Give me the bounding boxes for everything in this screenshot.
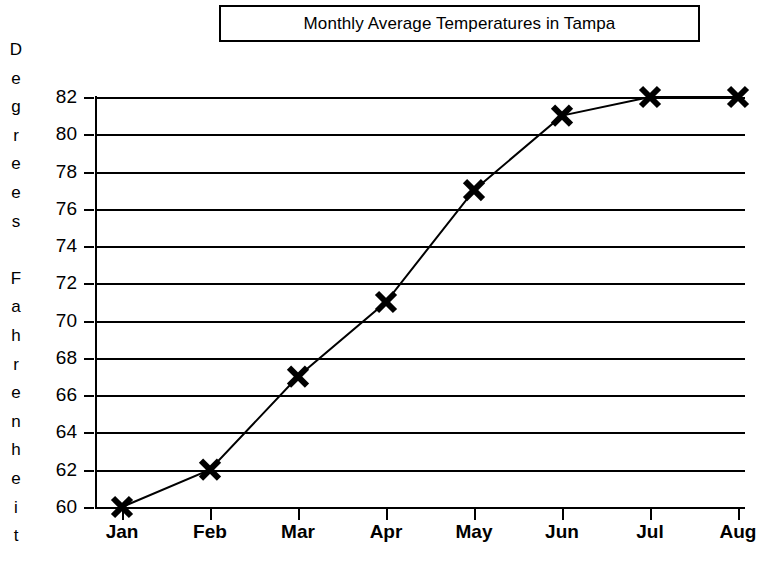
- data-point-marker: [289, 368, 307, 386]
- series-line: [122, 97, 738, 507]
- x-tick-mark: [210, 507, 212, 520]
- x-tick-label: Aug: [720, 521, 757, 543]
- y-axis-label-char: i: [14, 494, 18, 523]
- y-tick-mark: [84, 432, 94, 434]
- data-series: [95, 97, 745, 507]
- y-tick-mark: [84, 358, 94, 360]
- x-tick-mark: [562, 507, 564, 520]
- data-point-marker: [465, 181, 483, 199]
- y-tick-label: 70: [56, 310, 77, 332]
- chart-title: Monthly Average Temperatures in Tampa: [304, 14, 616, 34]
- y-tick-mark: [84, 134, 94, 136]
- y-axis-label: DegreesFahrenheit: [4, 36, 28, 551]
- y-axis-label-char: h: [11, 322, 20, 351]
- y-axis-label-char: F: [11, 265, 21, 294]
- y-axis-label-char: t: [14, 522, 19, 551]
- y-axis-label-char: h: [11, 436, 20, 465]
- y-axis-label-char: e: [11, 150, 20, 179]
- y-axis-label-char: D: [10, 36, 22, 65]
- y-tick-mark: [84, 470, 94, 472]
- y-tick-mark: [84, 246, 94, 248]
- y-tick-mark: [84, 507, 94, 509]
- y-axis-label-char: g: [11, 93, 20, 122]
- x-tick-label: Jul: [636, 521, 663, 543]
- y-axis-label-char: e: [11, 379, 20, 408]
- y-tick-mark: [84, 97, 94, 99]
- x-tick-mark: [298, 507, 300, 520]
- y-axis-label-char: a: [11, 293, 20, 322]
- y-tick-label: 74: [56, 235, 77, 257]
- x-tick-mark: [386, 507, 388, 520]
- x-tick-mark: [650, 507, 652, 520]
- y-tick-mark: [84, 321, 94, 323]
- data-point-marker: [377, 293, 395, 311]
- x-tick-label: Feb: [193, 521, 227, 543]
- chart-title-box: Monthly Average Temperatures in Tampa: [219, 5, 700, 42]
- x-tick-label: Jun: [545, 521, 579, 543]
- y-tick-label: 68: [56, 347, 77, 369]
- y-tick-label: 80: [56, 123, 77, 145]
- y-axis-label-char: e: [11, 65, 20, 94]
- x-tick-label: Apr: [370, 521, 403, 543]
- y-tick-mark: [84, 209, 94, 211]
- data-point-marker: [553, 107, 571, 125]
- y-tick-label: 82: [56, 86, 77, 108]
- y-axis-label-char: s: [12, 208, 21, 237]
- x-tick-mark: [738, 507, 740, 520]
- x-tick-label: Mar: [281, 521, 315, 543]
- y-tick-label: 78: [56, 161, 77, 183]
- gridline: [95, 507, 745, 509]
- x-tick-label: May: [456, 521, 493, 543]
- y-tick-mark: [84, 283, 94, 285]
- x-tick-label: Jan: [106, 521, 139, 543]
- y-axis-label-char: r: [13, 351, 19, 380]
- y-tick-mark: [84, 395, 94, 397]
- y-tick-label: 62: [56, 459, 77, 481]
- data-point-marker: [201, 461, 219, 479]
- x-tick-mark: [474, 507, 476, 520]
- y-tick-label: 66: [56, 384, 77, 406]
- y-tick-label: 76: [56, 198, 77, 220]
- y-axis-label-char: n: [11, 408, 20, 437]
- plot-area: 828078767472706866646260 JanFebMarAprMay…: [95, 97, 745, 507]
- y-tick-label: 60: [56, 496, 77, 518]
- y-tick-label: 72: [56, 272, 77, 294]
- y-tick-label: 64: [56, 421, 77, 443]
- y-axis-label-char: r: [13, 122, 19, 151]
- y-axis-label-char: e: [11, 465, 20, 494]
- y-axis-label-char: e: [11, 179, 20, 208]
- y-tick-mark: [84, 172, 94, 174]
